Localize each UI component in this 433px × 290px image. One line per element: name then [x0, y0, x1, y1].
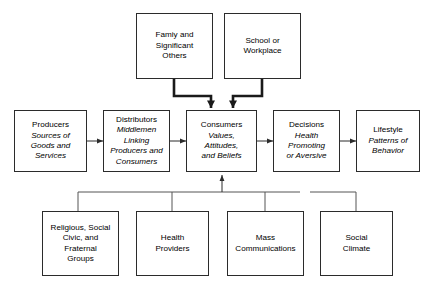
- node-distributors-title: Distributors: [116, 115, 157, 125]
- node-consumers-title: Consumers: [201, 120, 242, 130]
- node-decisions[interactable]: Decisions Health Promoting or Aversive: [273, 110, 340, 172]
- node-school-or-workplace[interactable]: School or Workplace: [224, 13, 301, 79]
- node-distributors[interactable]: Distributors Middlemen Linking Producers…: [103, 110, 170, 172]
- node-mass-communications[interactable]: Mass Communications: [227, 211, 304, 276]
- node-producers[interactable]: Producers Sources of Goods and Services: [14, 110, 87, 172]
- node-social-climate-title: Social Climate: [343, 233, 370, 254]
- node-producers-subtitle: Sources of Goods and Services: [31, 131, 71, 162]
- arrow-school-to-consumers: [233, 79, 262, 108]
- node-religious-title: Religious, Social Civic, and Fraternal G…: [51, 223, 111, 265]
- node-family-and-significant-others[interactable]: Famiy and Significant Others: [136, 13, 213, 79]
- node-mass-communications-title: Mass Communications: [235, 233, 295, 254]
- node-lifestyle-title: Lifestyle: [373, 125, 403, 135]
- node-school-title: School or Workplace: [243, 36, 281, 57]
- node-health-providers-title: Health Providers: [155, 233, 189, 254]
- diagram-canvas: Famiy and Significant Others School or W…: [0, 0, 433, 290]
- node-distributors-subtitle: Middlemen Linking Producers and Consumer…: [110, 125, 163, 167]
- node-consumers[interactable]: Consumers Values, Attitudes, and Beliefs: [186, 110, 257, 172]
- node-health-providers[interactable]: Health Providers: [136, 211, 209, 276]
- node-family-title: Famiy and Significant Others: [156, 30, 194, 61]
- node-religious-social-civic-fraternal-groups[interactable]: Religious, Social Civic, and Fraternal G…: [42, 211, 119, 276]
- node-producers-title: Producers: [32, 120, 69, 130]
- node-decisions-subtitle: Health Promoting or Aversive: [286, 131, 326, 162]
- node-lifestyle[interactable]: Lifestyle Patterns of Behavior: [356, 110, 420, 172]
- node-consumers-subtitle: Values, Attitudes, and Beliefs: [201, 131, 241, 162]
- arrow-family-to-consumers: [174, 79, 211, 108]
- node-decisions-title: Decisions: [289, 120, 324, 130]
- node-lifestyle-subtitle: Patterns of Behavior: [368, 136, 407, 157]
- node-social-climate[interactable]: Social Climate: [320, 211, 393, 276]
